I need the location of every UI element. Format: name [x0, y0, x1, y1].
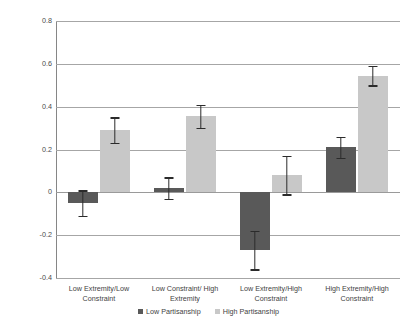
error-bar [168, 177, 169, 198]
bar-chart: 0.80.60.40.20-0.2-0.4 Low Extremity/Low … [0, 0, 417, 331]
error-bar-cap [165, 199, 174, 200]
error-bar [254, 231, 255, 270]
error-bar-cap [197, 105, 206, 106]
error-bar-cap [369, 85, 378, 86]
error-bar-cap [111, 117, 120, 118]
bar [358, 76, 388, 193]
legend-swatch-icon [138, 309, 143, 314]
y-axis-tick-label: -0.2 [6, 232, 52, 239]
legend-item-low-partisanship: Low Partisanship [138, 307, 201, 316]
error-bar [286, 156, 287, 195]
error-bar-cap [197, 128, 206, 129]
error-bar [200, 105, 201, 129]
error-bar-cap [79, 216, 88, 217]
error-bar-cap [283, 156, 292, 157]
y-axis-tick-label: 0.8 [6, 17, 52, 24]
x-axis-category-label: Low Extremity/Low Constraint [56, 284, 142, 303]
error-bar [340, 137, 341, 158]
error-bar-cap [337, 137, 346, 138]
x-axis-category-label: Low Extremity/High Constraint [228, 284, 314, 303]
error-bar [372, 66, 373, 85]
bar-group [56, 0, 142, 257]
legend-swatch-icon [215, 309, 220, 314]
error-bar-cap [251, 269, 260, 270]
error-bar-cap [283, 194, 292, 195]
error-bar-cap [251, 231, 260, 232]
y-axis-tick-label: 0 [6, 189, 52, 196]
legend-label: Low Partisanship [146, 307, 201, 316]
error-bar [114, 117, 115, 143]
gridline [56, 278, 400, 279]
error-bar-cap [111, 143, 120, 144]
error-bar [82, 190, 83, 216]
error-bar-cap [165, 177, 174, 178]
error-bar-cap [337, 158, 346, 159]
x-axis-category-label: High Extremity/High Constraint [314, 284, 400, 303]
x-axis-category-label: Low Constraint/ High Extremity [142, 284, 228, 303]
legend-label: High Partisanship [223, 307, 279, 316]
y-axis-tick-label: 0.4 [6, 103, 52, 110]
y-axis-tick-label: 0.2 [6, 146, 52, 153]
error-bar-cap [369, 66, 378, 67]
y-axis-tick-label: -0.4 [6, 274, 52, 281]
legend-item-high-partisanship: High Partisanship [215, 307, 279, 316]
y-axis-tick-label: 0.6 [6, 60, 52, 67]
chart-legend: Low Partisanship High Partisanship [0, 307, 417, 316]
error-bar-cap [79, 190, 88, 191]
